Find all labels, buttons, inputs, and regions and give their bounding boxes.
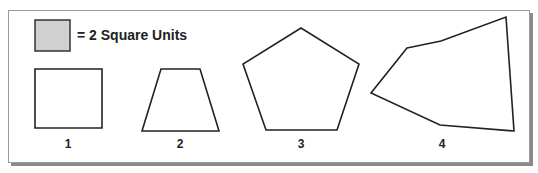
- shape-3-pentagon: [243, 28, 359, 130]
- shape-label-2: 2: [170, 137, 190, 151]
- shape-label-4: 4: [432, 137, 452, 151]
- legend-swatch: [35, 20, 70, 51]
- shapes-canvas: [0, 0, 538, 173]
- shape-1-square: [35, 69, 102, 128]
- shape-2-trapezoid: [142, 69, 219, 131]
- shape-4-irregular-polygon: [371, 17, 514, 131]
- shape-label-1: 1: [58, 137, 78, 151]
- shape-label-3: 3: [291, 137, 311, 151]
- legend-text: = 2 Square Units: [77, 27, 187, 43]
